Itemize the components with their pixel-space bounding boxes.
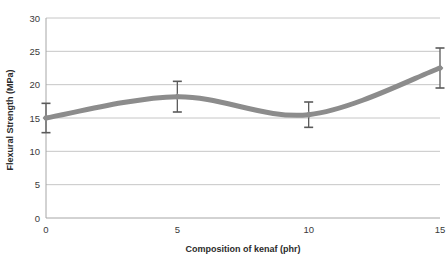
gridlines <box>46 18 440 218</box>
x-tick-label: 15 <box>435 224 446 235</box>
data-series-group <box>42 48 445 133</box>
y-tick-label: 0 <box>35 213 40 224</box>
flexural-strength-line-chart: Flexural Strength (MPa) 051015202530 051… <box>0 0 448 262</box>
y-tick-label: 30 <box>29 13 40 24</box>
plot-area: 051015202530 051015 Composition of kenaf… <box>0 0 448 262</box>
y-tick-label: 15 <box>29 113 40 124</box>
y-tick-label: 5 <box>35 179 40 190</box>
x-axis-title: Composition of kenaf (phr) <box>186 244 301 254</box>
x-tick-label: 5 <box>175 224 180 235</box>
x-tick-label: 0 <box>43 224 48 235</box>
y-tick-label: 25 <box>29 46 40 57</box>
y-tick-label: 10 <box>29 146 40 157</box>
x-axis-tick-labels: 051015 <box>43 224 445 235</box>
y-axis-tick-labels: 051015202530 <box>29 13 40 224</box>
x-tick-label: 10 <box>303 224 314 235</box>
series-line-flexural-strength <box>46 68 440 118</box>
y-tick-label: 20 <box>29 79 40 90</box>
